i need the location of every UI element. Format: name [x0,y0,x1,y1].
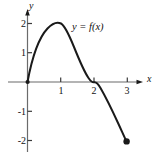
x-axis-label: x [147,74,151,84]
y-axis-label: y [29,1,33,11]
x-tick-label-1: 1 [56,86,66,96]
endpoint-marker-dot [123,138,129,144]
x-tick-label-2: 2 [89,86,99,96]
y-tick-label-minus-1: -1 [11,107,26,117]
y-tick-label-minus-2: -2 [11,136,26,146]
function-graph-figure: 2 1 -1 -2 1 2 3 y x y = f(x) [0,0,160,157]
origin-marker-dot [26,80,30,84]
x-tick-label-3: 3 [122,86,132,96]
x-axis-arrowhead [137,80,144,85]
y-tick-label-2: 2 [17,19,26,29]
y-tick-label-1: 1 [17,48,26,58]
curve-equation-label: y = f(x) [72,22,104,33]
